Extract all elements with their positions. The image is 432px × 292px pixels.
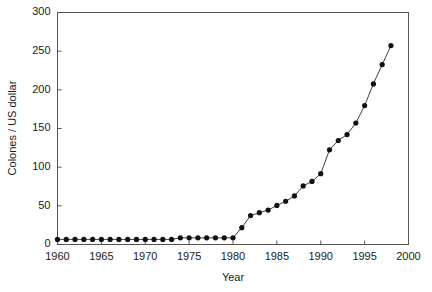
data-point xyxy=(187,235,192,240)
data-point xyxy=(72,237,77,242)
x-tick-label-1990: 1990 xyxy=(309,250,333,262)
y-tick-label-200: 200 xyxy=(32,83,50,95)
x-axis-tick-labels: 196019651970197519801985199019952000 xyxy=(45,250,420,262)
x-tick-label-1975: 1975 xyxy=(177,250,201,262)
data-point xyxy=(388,43,393,48)
x-tick-label-1980: 1980 xyxy=(221,250,245,262)
data-point xyxy=(362,103,367,108)
data-point xyxy=(266,207,271,212)
y-tick-label-100: 100 xyxy=(32,160,50,172)
data-point xyxy=(248,213,253,218)
data-point xyxy=(344,132,349,137)
data-point xyxy=(151,237,156,242)
data-point xyxy=(108,237,113,242)
data-point xyxy=(257,210,262,215)
x-tick-label-2000: 2000 xyxy=(396,250,420,262)
y-tick-label-250: 250 xyxy=(32,44,50,56)
data-point xyxy=(301,183,306,188)
y-axis-tick-labels: 050100150200250300 xyxy=(32,5,50,249)
data-point xyxy=(336,138,341,143)
y-tick-label-300: 300 xyxy=(32,5,50,17)
plot-area-frame xyxy=(58,13,409,245)
x-tick-label-1960: 1960 xyxy=(45,250,69,262)
data-point xyxy=(81,237,86,242)
data-point xyxy=(90,237,95,242)
data-point xyxy=(230,235,235,240)
x-tick-label-1965: 1965 xyxy=(89,250,113,262)
exchange-rate-line-chart: 050100150200250300 196019651970197519801… xyxy=(0,0,432,292)
data-point xyxy=(353,120,358,125)
chart-figure: 050100150200250300 196019651970197519801… xyxy=(0,0,432,292)
data-point xyxy=(143,237,148,242)
y-axis-title: Colones / US dollar xyxy=(6,80,18,175)
data-point xyxy=(292,193,297,198)
data-point xyxy=(116,237,121,242)
data-point xyxy=(283,199,288,204)
y-tick-label-0: 0 xyxy=(44,237,50,249)
data-point xyxy=(55,237,60,242)
data-point xyxy=(327,147,332,152)
x-tick-label-1995: 1995 xyxy=(352,250,376,262)
data-point xyxy=(371,81,376,86)
y-tick-label-150: 150 xyxy=(32,121,50,133)
x-tick-label-1970: 1970 xyxy=(133,250,157,262)
data-point xyxy=(160,237,165,242)
data-point xyxy=(213,235,218,240)
data-series-markers xyxy=(55,43,394,242)
x-tick-label-1985: 1985 xyxy=(265,250,289,262)
data-point xyxy=(125,237,130,242)
data-point xyxy=(169,237,174,242)
y-axis-ticks xyxy=(58,13,62,245)
x-axis-title: Year xyxy=(222,271,245,283)
data-point xyxy=(239,225,244,230)
data-point xyxy=(134,237,139,242)
data-point xyxy=(99,237,104,242)
data-point xyxy=(222,235,227,240)
data-point xyxy=(195,235,200,240)
data-point xyxy=(64,237,69,242)
data-point xyxy=(380,62,385,67)
data-series-line xyxy=(58,46,391,240)
data-point xyxy=(274,203,279,208)
data-point xyxy=(309,179,314,184)
data-point xyxy=(204,235,209,240)
data-point xyxy=(318,171,323,176)
data-point xyxy=(178,235,183,240)
y-tick-label-50: 50 xyxy=(38,199,50,211)
